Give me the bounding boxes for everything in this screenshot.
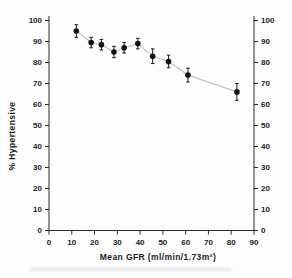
scan-artifact [30, 268, 232, 271]
x-tick-label: 40 [136, 238, 145, 247]
data-point [234, 89, 240, 95]
y-tick-label-left: 100 [29, 16, 43, 25]
y-tick-label-left: 60 [33, 100, 42, 109]
data-point [121, 45, 127, 51]
y-tick-label-right: 10 [261, 205, 270, 214]
series-line [76, 31, 237, 92]
x-axis-title: Mean GFR (ml/min/1.73m²) [100, 252, 216, 262]
y-tick-label-left: 90 [33, 37, 42, 46]
data-point [185, 72, 191, 78]
y-axis-title: % Hypertensive [7, 102, 17, 171]
data-point [74, 28, 80, 34]
data-point [166, 59, 172, 65]
y-tick-label-left: 80 [33, 58, 42, 67]
x-tick-label: 80 [227, 238, 236, 247]
y-tick-label-right: 100 [261, 16, 275, 25]
data-point [88, 40, 94, 46]
x-tick-label: 0 [47, 238, 52, 247]
x-tick-label: 10 [67, 238, 76, 247]
data-point [150, 53, 156, 59]
y-tick-label-right: 0 [261, 226, 266, 235]
y-tick-label-right: 80 [261, 58, 270, 67]
x-tick-label: 30 [113, 238, 122, 247]
x-tick-label: 50 [158, 238, 167, 247]
x-tick-label: 60 [181, 238, 190, 247]
figure: 0010102020303040405050606070708080909010… [0, 0, 292, 278]
y-tick-label-left: 50 [33, 121, 42, 130]
y-tick-label-left: 40 [33, 142, 42, 151]
y-tick-label-left: 0 [38, 226, 43, 235]
x-tick-label: 70 [204, 238, 213, 247]
data-point [135, 41, 141, 47]
chart-canvas: 0010102020303040405050606070708080909010… [0, 0, 292, 278]
y-tick-label-right: 70 [261, 79, 270, 88]
y-tick-label-left: 20 [33, 184, 42, 193]
y-tick-label-right: 50 [261, 121, 270, 130]
y-tick-label-left: 70 [33, 79, 42, 88]
y-tick-label-right: 30 [261, 163, 270, 172]
x-tick-label: 20 [90, 238, 99, 247]
y-tick-label-right: 90 [261, 37, 270, 46]
data-point [111, 49, 117, 55]
y-tick-label-left: 30 [33, 163, 42, 172]
y-tick-label-right: 20 [261, 184, 270, 193]
data-point [99, 42, 105, 48]
x-tick-label: 90 [250, 238, 259, 247]
y-tick-label-right: 40 [261, 142, 270, 151]
y-tick-label-right: 60 [261, 100, 270, 109]
y-tick-label-left: 10 [33, 205, 42, 214]
